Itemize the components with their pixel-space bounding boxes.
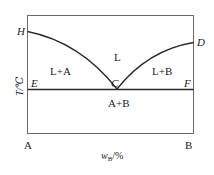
point-e-label: E (30, 77, 38, 89)
x-axis-right-label: B (185, 139, 192, 151)
phase-diagram: H D C E F L L+A L+B A+B T/℃ A B wB/% (0, 0, 214, 175)
region-l-plus-b-label: L+B (152, 65, 172, 77)
liquidus-curve-hc (28, 32, 118, 90)
x-axis-label: wB/% (101, 150, 123, 163)
point-f-label: F (183, 77, 191, 89)
x-axis-label-suffix: /% (112, 150, 123, 161)
point-d-label: D (196, 36, 205, 48)
region-l-plus-a-label: L+A (50, 65, 71, 77)
point-c-label: C (111, 77, 119, 89)
point-h-label: H (16, 25, 26, 37)
region-a-plus-b-label: A+B (108, 97, 129, 109)
y-axis-label: T/℃ (14, 76, 25, 96)
x-axis-left-label: A (24, 139, 32, 151)
region-liquid-label: L (114, 51, 121, 63)
